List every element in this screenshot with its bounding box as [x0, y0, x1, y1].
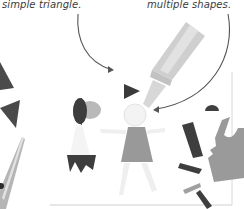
illustration-scene [0, 0, 244, 209]
scissors-icon [0, 137, 25, 209]
dark-strips [178, 122, 212, 209]
semicircle-shape [205, 105, 219, 111]
dog-shape [208, 117, 244, 182]
glue-bottle-icon [143, 22, 205, 108]
center-figure [100, 84, 165, 195]
arrow-left-icon [78, 14, 114, 73]
loose-triangles [0, 62, 20, 128]
left-figure [67, 98, 101, 173]
